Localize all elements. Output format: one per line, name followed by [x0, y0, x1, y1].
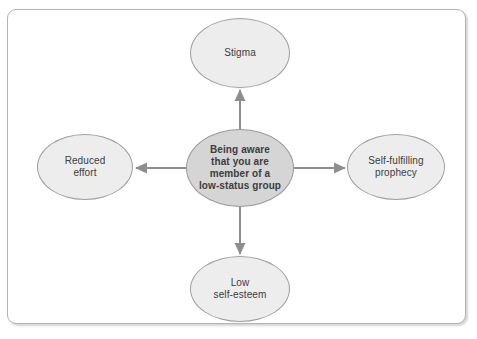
node-reduced-effort[interactable]: Reduced effort — [37, 134, 133, 200]
node-self-fulfilling-prophecy[interactable]: Self-fulfilling prophecy — [347, 134, 445, 200]
diagram-canvas: Stigma Reduced effort Self-fulfilling pr… — [0, 0, 477, 339]
node-stigma[interactable]: Stigma — [190, 18, 290, 88]
node-center-label: Being aware that you are member of a low… — [199, 144, 281, 193]
node-self-fulfilling-prophecy-label: Self-fulfilling prophecy — [368, 155, 423, 179]
node-low-self-esteem-label: Low self-esteem — [214, 277, 267, 301]
node-low-self-esteem[interactable]: Low self-esteem — [190, 256, 290, 322]
node-reduced-effort-label: Reduced effort — [65, 155, 106, 179]
node-stigma-label: Stigma — [224, 47, 256, 59]
node-center-being-aware[interactable]: Being aware that you are member of a low… — [186, 129, 294, 207]
